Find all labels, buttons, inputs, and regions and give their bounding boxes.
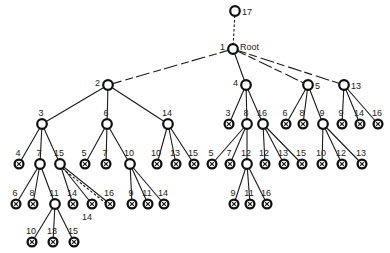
open-circle-icon: [37, 119, 47, 129]
node-label: 7: [226, 148, 231, 158]
leaf-node-p15: 15: [68, 226, 78, 246]
node-label: 6: [282, 108, 287, 118]
tree-edge-n2-a14: [108, 85, 168, 124]
open-circle-icon: [103, 80, 113, 90]
tree-edge-h12-o9: [234, 164, 247, 204]
tree-node-c9: 9: [318, 108, 328, 129]
node-label: 16: [261, 188, 271, 198]
tree-edge-e7-k11: [40, 164, 55, 204]
leaf-node-l14: 14: [67, 188, 77, 208]
node-label: 11: [49, 188, 58, 198]
search-tree-diagram: 171Root245133614381668991416471557101013…: [0, 0, 390, 253]
tree-node-b16: 16: [257, 108, 268, 129]
node-label: 5: [208, 148, 213, 158]
tree-edge-n4-b3: [229, 85, 246, 124]
open-circle-icon: [242, 119, 252, 129]
node-label: 10: [316, 148, 326, 158]
open-circle-icon: [55, 159, 65, 169]
tree-edge-k11-p10: [32, 204, 55, 242]
node-label: 14: [67, 188, 77, 198]
node-label: 15: [54, 148, 64, 158]
leaf-node-o9: 9: [230, 188, 239, 208]
node-label: 5: [81, 148, 86, 158]
leaf-node-g10: 10: [151, 148, 161, 168]
node-label: 4: [233, 78, 238, 88]
node-label: 15: [68, 226, 78, 236]
node-label: 9: [230, 188, 235, 198]
node-label: 17: [242, 7, 252, 17]
node-label: 3: [38, 108, 43, 118]
node-label: 16: [257, 108, 267, 118]
node-label: 13: [356, 148, 366, 158]
leaf-node-h5: 5: [208, 148, 217, 168]
open-circle-icon: [35, 159, 45, 169]
open-circle-icon: [339, 80, 349, 90]
open-circle-icon: [230, 6, 240, 16]
leaf-node-j10: 10: [316, 148, 326, 168]
tree-edge-a6-f10: [107, 124, 130, 164]
tree-edge-n5-c6: [286, 85, 308, 124]
leaf-node-g15: 15: [188, 148, 198, 168]
node-label: 9: [319, 108, 324, 118]
node-label: 8: [29, 188, 34, 198]
tree-edge-b16-i15: [263, 124, 302, 164]
tree-edge-n2-a3: [42, 85, 108, 124]
tree-edge-n1-n13: [233, 49, 344, 85]
leaf-node-c8: 8: [299, 108, 308, 128]
node-label: 10: [26, 226, 36, 236]
tree-node-a6: 6: [102, 108, 112, 129]
tree-edge-f10-m11: [130, 164, 148, 204]
tree-node-a14: 14: [162, 108, 173, 129]
leaf-node-d14: 14: [354, 108, 364, 128]
node-label: 13: [278, 148, 288, 158]
node-label: 7: [102, 148, 107, 158]
tree-edge-a6-f5: [85, 124, 107, 164]
node-label: 15: [188, 148, 198, 158]
node-label: 4: [15, 148, 20, 158]
leaf-node-j12: 12: [336, 148, 346, 168]
tree-edge-e15-l16: [60, 164, 110, 204]
node-label: 14: [162, 108, 172, 118]
leaf-node-o16: 16: [261, 188, 271, 208]
tree-edge-n1-n2: [108, 49, 233, 85]
tree-edge-c9-j10: [322, 124, 323, 164]
tree-node-n5: 5: [303, 80, 320, 91]
leaf-node-k8: 8: [29, 188, 38, 208]
tree-edge-a3-e15: [42, 124, 60, 164]
node-label: 14: [354, 108, 364, 118]
node-label: 13: [47, 226, 57, 236]
open-circle-icon: [228, 44, 238, 54]
tree-edge-f10-m14: [130, 164, 164, 204]
open-circle-icon: [258, 119, 268, 129]
leaf-node-p10: 10: [26, 226, 36, 246]
tree-edge-e15-l14: [60, 164, 73, 204]
node-label: 8: [299, 108, 304, 118]
tree-edge-b16-i12: [263, 124, 265, 164]
node-label: 6: [103, 108, 108, 118]
node-label: 1: [220, 42, 225, 52]
node-label: 12: [241, 148, 251, 158]
tree-edge-a3-e7: [40, 124, 42, 164]
node-label: 16: [372, 108, 382, 118]
node-label: 10: [124, 148, 134, 158]
leaf-node-l14b: 14: [82, 200, 96, 222]
tree-node-e7: 7: [35, 148, 45, 169]
leaf-node-i15: 15: [296, 148, 306, 168]
tree-node-f10: 10: [124, 148, 135, 169]
open-circle-icon: [102, 119, 112, 129]
node-label: 10: [151, 148, 161, 158]
node-label: 11: [244, 188, 253, 198]
node-label: 13: [170, 148, 180, 158]
open-circle-icon: [125, 159, 135, 169]
tree-node-n17: 17: [230, 6, 252, 17]
tree-node-n13: 13: [339, 80, 361, 91]
leaf-node-h7: 7: [226, 148, 235, 168]
node-label: 9: [128, 188, 133, 198]
node-label: 13: [351, 81, 361, 91]
node-label: 11: [142, 188, 151, 198]
tree-edge-b8-h7: [230, 124, 247, 164]
node-label: 2: [95, 78, 100, 88]
open-circle-icon: [242, 159, 252, 169]
open-circle-icon: [318, 119, 328, 129]
node-label: 7: [36, 148, 41, 158]
